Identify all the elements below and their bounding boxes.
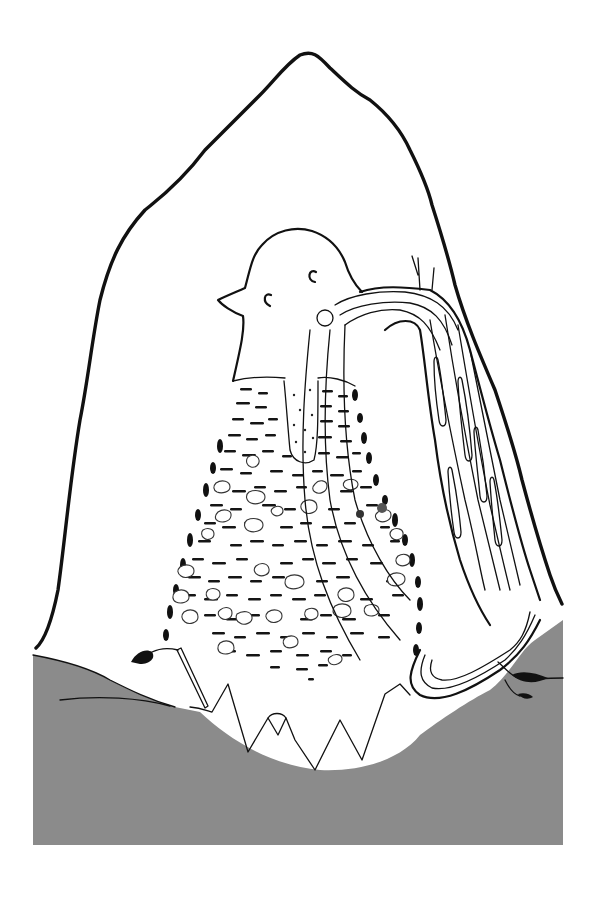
left-leaf-marker xyxy=(131,649,178,664)
illustration-canvas xyxy=(0,0,603,900)
small-circle xyxy=(317,310,333,326)
bird-head xyxy=(218,229,362,381)
illustration xyxy=(0,0,603,900)
mountain-outline xyxy=(36,53,562,648)
ground-layer xyxy=(33,620,563,845)
right-eye-icon xyxy=(309,271,316,282)
dark-marker xyxy=(377,503,387,513)
banded-tube xyxy=(303,287,540,698)
dark-marker xyxy=(356,510,364,518)
twig xyxy=(412,256,434,290)
central-pale-column xyxy=(284,381,318,463)
tooth-inner xyxy=(268,718,286,735)
sediment-body xyxy=(163,377,423,680)
left-eye-icon xyxy=(265,294,271,306)
left-stick xyxy=(177,648,208,708)
